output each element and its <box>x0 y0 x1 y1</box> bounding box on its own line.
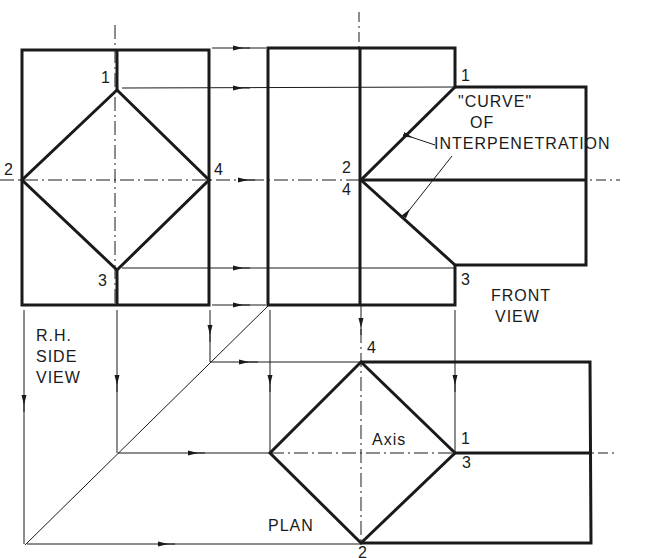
annotation-line3: INTERPENETRATION <box>434 134 611 154</box>
leader-lower <box>407 156 452 213</box>
plan-view <box>270 305 618 543</box>
side-point-1-label: 1 <box>101 70 110 86</box>
proj-point1 <box>122 87 455 88</box>
side-point-2-label: 2 <box>4 162 13 178</box>
plan-point-4-label: 4 <box>367 340 376 356</box>
front-point-4-label: 4 <box>342 182 351 198</box>
plan-axis-label: Axis <box>372 430 406 450</box>
plan-title: PLAN <box>268 516 314 536</box>
front-point-2-label: 2 <box>342 160 351 176</box>
side-view-title-line3: VIEW <box>36 368 81 388</box>
front-view-title-line2: VIEW <box>495 307 540 327</box>
side-view-title-line1: R.H. <box>36 326 72 346</box>
projection-lines <box>24 48 455 545</box>
front-point-3-label: 3 <box>461 272 470 288</box>
side-view-title-line2: SIDE <box>36 347 77 367</box>
side-point-4-label: 4 <box>214 162 223 178</box>
annotation-line2: OF <box>470 113 494 133</box>
plan-point-2-label: 2 <box>358 545 367 558</box>
front-view <box>250 12 620 305</box>
front-view-title-line1: FRONT <box>491 286 551 306</box>
annotation-line1: "CURVE" <box>458 92 532 112</box>
plan-point-1-label: 1 <box>461 431 470 447</box>
plan-point-3-label: 3 <box>462 455 471 471</box>
side-point-3-label: 3 <box>98 273 107 289</box>
interpenetration-line <box>361 87 455 265</box>
front-point-1-label: 1 <box>461 68 470 84</box>
side-view <box>0 25 250 305</box>
leader-upper <box>408 136 435 145</box>
